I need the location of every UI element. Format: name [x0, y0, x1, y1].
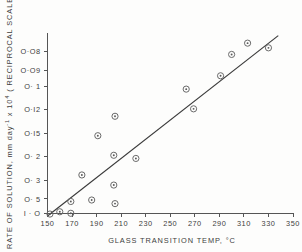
data-point — [265, 45, 271, 51]
x-axis-title: GLASS TRANSITION TEMP, °C — [108, 236, 236, 245]
y-tick-group — [44, 51, 48, 213]
data-point-center — [114, 203, 116, 205]
data-point — [68, 198, 74, 204]
x-tick-label: 170 — [65, 219, 79, 228]
data-point — [217, 73, 223, 79]
data-point-center — [231, 53, 233, 55]
x-tick-label: 290 — [212, 219, 226, 228]
data-point-center — [135, 157, 137, 159]
x-tick-label: 350 — [286, 219, 300, 228]
figure-container: O·O8O·O9O· 1O·I2O·I5O· 2O· 3O· 5I · O 15… — [0, 0, 302, 252]
data-point-center — [247, 42, 249, 44]
data-point — [244, 40, 250, 46]
x-tick-label: 190 — [90, 219, 104, 228]
y-tick-label: O·O9 — [20, 66, 40, 75]
data-point-center — [185, 88, 187, 90]
data-point-center — [59, 211, 61, 213]
x-tick-label: 330 — [262, 219, 276, 228]
x-tick-label-group: 150170190210230250270290310330350 — [41, 219, 300, 228]
scatter-chart: O·O8O·O9O· 1O·I2O·I5O· 2O· 3O· 5I · O 15… — [0, 0, 302, 252]
y-axis-title: RATE OF SOLUTION, mm day-1 x 104 ( RECIP… — [4, 0, 14, 249]
data-point-center — [114, 115, 116, 117]
data-point — [112, 113, 118, 119]
data-point-center — [70, 212, 72, 214]
data-point-center — [113, 184, 115, 186]
fit-line — [48, 36, 279, 216]
x-tick-label: 270 — [188, 219, 202, 228]
data-point-center — [220, 75, 222, 77]
data-point — [183, 86, 189, 92]
x-tick-label: 230 — [139, 219, 153, 228]
data-point-center — [193, 108, 195, 110]
data-point-center — [113, 154, 115, 156]
y-tick-label: O·O8 — [20, 47, 40, 56]
data-point — [111, 182, 117, 188]
data-point-center — [97, 135, 99, 137]
y-tick-label: I · O — [24, 209, 41, 218]
x-tick-label: 210 — [114, 219, 128, 228]
data-point-center — [49, 213, 51, 215]
y-tick-label: O· 1 — [24, 82, 40, 91]
data-point — [111, 152, 117, 158]
trend-line-group — [48, 36, 279, 216]
y-tick-label: O· 3 — [24, 176, 40, 185]
data-point — [190, 106, 196, 112]
data-point — [133, 155, 139, 161]
data-point-center — [81, 174, 83, 176]
y-tick-label: O·I2 — [24, 105, 40, 114]
data-point — [229, 51, 235, 57]
x-tick-label: 150 — [41, 219, 55, 228]
x-tick-label: 310 — [237, 219, 251, 228]
data-point-center — [268, 47, 270, 49]
y-tick-label: O· 5 — [24, 195, 40, 204]
x-tick-label: 250 — [163, 219, 177, 228]
data-point — [95, 133, 101, 139]
data-point-center — [91, 199, 93, 201]
axes-group — [48, 33, 294, 214]
data-point — [79, 172, 85, 178]
y-tick-label-group: O·O8O·O9O· 1O·I2O·I5O· 2O· 3O· 5I · O — [20, 47, 40, 218]
data-point — [112, 201, 118, 207]
y-tick-label: O·I5 — [24, 129, 40, 138]
y-tick-label: O· 2 — [24, 152, 40, 161]
data-point — [89, 197, 95, 203]
data-point-center — [70, 201, 72, 203]
